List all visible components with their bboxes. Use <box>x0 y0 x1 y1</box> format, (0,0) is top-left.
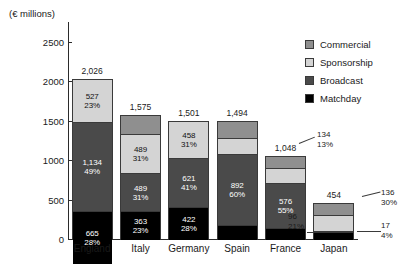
bar-segment[interactable]: 52723% <box>73 80 112 122</box>
bar-segment[interactable]: 66528% <box>73 211 112 263</box>
callout-leader-line <box>362 191 381 197</box>
legend-label: Matchday <box>320 93 361 104</box>
segment-percent-label: 41% <box>181 183 197 192</box>
callout-japan-broadcast: 174% <box>381 221 393 240</box>
segment-value-label: 489 <box>134 184 147 193</box>
segment-percent-label: 49% <box>84 167 100 176</box>
callout-japan-commercial: 13630% <box>381 188 397 207</box>
legend-swatch-icon <box>305 94 314 103</box>
bar-segment[interactable]: 42228% <box>169 207 208 240</box>
legend-item[interactable]: Broadcast <box>305 75 373 86</box>
legend-item[interactable]: Sponsorship <box>305 57 373 68</box>
segment-percent-label: 31% <box>133 154 149 163</box>
segment-percent-label: 60% <box>229 190 245 199</box>
callout-value-label: 17 <box>381 221 393 231</box>
legend-label: Broadcast <box>320 75 363 86</box>
legend-item[interactable]: Matchday <box>305 93 373 104</box>
bar-segment[interactable]: 36323% <box>121 211 160 240</box>
bar-total-label: 2,026 <box>72 66 113 76</box>
y-axis-tick <box>68 200 72 201</box>
bar-segment[interactable]: 89260% <box>218 154 257 224</box>
callout-percent-label: 13% <box>317 140 333 150</box>
callout-value-label: 134 <box>317 130 333 140</box>
callout-leader-line <box>307 232 330 233</box>
bar-segment[interactable] <box>266 168 305 183</box>
bar-total-label: 1,501 <box>168 108 209 118</box>
bar-group: 57655%1,048 <box>265 22 306 239</box>
y-axis-tick-label: 1500 <box>4 115 64 126</box>
bar-segment[interactable] <box>314 204 353 215</box>
segment-percent-label: 31% <box>181 140 197 149</box>
y-axis-tick <box>68 81 72 82</box>
segment-value-label: 1,134 <box>82 158 102 167</box>
x-axis-category-label: Japan <box>299 243 368 254</box>
y-axis-tick <box>68 42 72 43</box>
bar-segment[interactable]: 48931% <box>121 134 160 173</box>
bar-segment[interactable] <box>218 122 257 138</box>
callout-france-commercial: 13413% <box>317 130 333 149</box>
callout-percent-label: 30% <box>381 198 397 208</box>
legend-swatch-icon <box>305 40 314 49</box>
chart-legend: CommercialSponsorshipBroadcastMatchday <box>305 39 373 104</box>
bar-segment[interactable] <box>266 157 305 168</box>
bar-segment[interactable] <box>314 232 353 240</box>
bar-total-label: 454 <box>313 190 354 200</box>
bar-stack[interactable] <box>313 203 354 239</box>
y-axis-tick-label: 500 <box>4 194 64 205</box>
y-axis-tick-labels: 05001000150020002500 <box>0 0 64 268</box>
segment-value-label: 363 <box>134 217 147 226</box>
segment-value-label: 576 <box>279 197 292 206</box>
bar-segment[interactable] <box>218 225 257 240</box>
bar-total-label: 1,048 <box>265 143 306 153</box>
bar-stack[interactable]: 45831%62141%42228% <box>168 121 209 239</box>
y-axis-tick-label: 2500 <box>4 36 64 47</box>
bar-segment[interactable]: 1,13449% <box>73 122 112 211</box>
bar-segment[interactable]: 48931% <box>121 173 160 212</box>
bar-total-label: 1,494 <box>217 108 258 118</box>
legend-label: Sponsorship <box>320 57 373 68</box>
bar-segment[interactable]: 45831% <box>169 122 208 158</box>
y-axis-tick <box>68 121 72 122</box>
bar-stack[interactable]: 89260% <box>217 121 258 239</box>
bar-segment[interactable]: 62141% <box>169 158 208 207</box>
callout-japan-matchday: 9621% <box>288 212 304 231</box>
bar-stack[interactable]: 48931%48931%36323% <box>120 115 161 239</box>
segment-percent-label: 31% <box>133 193 149 202</box>
segment-value-label: 665 <box>86 229 99 238</box>
segment-value-label: 422 <box>182 215 195 224</box>
legend-label: Commercial <box>320 39 371 50</box>
stacked-bar-chart: (€ millions) 05001000150020002500 52723%… <box>0 0 418 268</box>
legend-swatch-icon <box>305 58 314 67</box>
segment-value-label: 458 <box>182 131 195 140</box>
segment-value-label: 489 <box>134 145 147 154</box>
segment-value-label: 892 <box>231 181 244 190</box>
callout-value-label: 136 <box>381 188 397 198</box>
bar-segment[interactable] <box>314 215 353 231</box>
segment-value-label: 527 <box>86 92 99 101</box>
legend-item[interactable]: Commercial <box>305 39 373 50</box>
bar-group: 52723%1,13449%66528%2,026 <box>72 22 113 239</box>
bar-total-label: 1,575 <box>120 102 161 112</box>
bar-group: 89260%1,494 <box>217 22 258 239</box>
y-axis-tick <box>68 239 72 240</box>
bar-group: 45831%62141%42228%1,501 <box>168 22 209 239</box>
bar-group: 48931%48931%36323%1,575 <box>120 22 161 239</box>
bar-stack[interactable]: 52723%1,13449%66528% <box>72 79 113 239</box>
segment-percent-label: 23% <box>84 101 100 110</box>
y-axis-tick-label: 1000 <box>4 155 64 166</box>
y-axis-tick-label: 2000 <box>4 76 64 87</box>
segment-value-label: 621 <box>182 174 195 183</box>
bar-segment[interactable] <box>121 116 160 134</box>
legend-swatch-icon <box>305 76 314 85</box>
bar-segment[interactable] <box>218 138 257 154</box>
callout-leader-line <box>357 231 381 232</box>
callout-value-label: 96 <box>288 212 304 222</box>
segment-percent-label: 28% <box>181 224 197 233</box>
y-axis-tick-label: 0 <box>4 234 64 245</box>
callout-percent-label: 21% <box>288 222 304 232</box>
y-axis-tick <box>68 160 72 161</box>
callout-percent-label: 4% <box>381 231 393 241</box>
segment-percent-label: 23% <box>133 226 149 235</box>
